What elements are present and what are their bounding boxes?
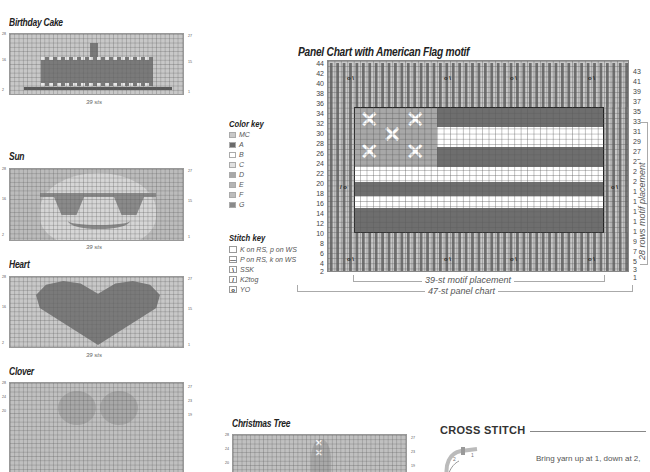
yo-ssk-marker: o \: [347, 256, 354, 262]
color-key-item-a: A: [229, 141, 244, 148]
cake-candle: [90, 43, 98, 57]
color-key-item-e: E: [229, 181, 244, 188]
heart-sts: 39 sts: [86, 352, 102, 358]
svg-text:2: 2: [453, 456, 456, 462]
swatch-f: [229, 192, 236, 198]
clover-leaf-left: [58, 391, 96, 425]
yo-ssk-marker: o \: [611, 184, 618, 190]
motif-height-label: 28 rows motif placement: [637, 160, 647, 262]
color-key-item-d: D: [229, 171, 244, 178]
svg-text:1: 1: [471, 452, 474, 458]
stitch-key-heading: Stitch key: [229, 233, 265, 243]
christmas-tree-chart: ✕ ✕: [232, 434, 407, 472]
birthday-cake-chart: [9, 33, 184, 95]
chart-title-clover: Clover: [9, 366, 34, 377]
motif-width-label: 39-st motif placement: [422, 275, 514, 285]
cross-stitch-instructions: Bring yarn up at 1, down at 2,: [536, 454, 641, 463]
yo-ssk-marker: o \: [444, 75, 451, 81]
sun-glasses-band: [40, 193, 156, 197]
color-key-heading: Color key: [229, 119, 264, 129]
panel-width-label: 47-st panel chart: [425, 286, 498, 296]
chart-title-heart: Heart: [9, 259, 29, 270]
swatch-c: [229, 162, 236, 168]
yo-ssk-marker: o \: [444, 256, 451, 262]
yo-symbol-icon: o: [229, 286, 237, 293]
birthday-cake-sts: 39 sts: [86, 99, 102, 105]
swatch-d: [229, 172, 236, 178]
color-key-item-f: F: [229, 191, 243, 198]
cake-plate: [24, 87, 172, 90]
chart-title-christmas-tree: Christmas Tree: [232, 418, 290, 429]
chart-title-sun: Sun: [9, 151, 24, 162]
clover-chart: [9, 382, 184, 472]
cake-icing-top: [41, 57, 153, 60]
k2tog-yo-marker: / o: [340, 184, 347, 190]
sun-chart: [9, 168, 184, 241]
stitch-key-knit: K on RS, p on WS: [229, 246, 297, 253]
yo-ssk-marker: o \: [510, 256, 517, 262]
panel-chart-title: Panel Chart with American Flag motif: [298, 45, 469, 59]
color-key-item-g: G: [229, 201, 244, 208]
color-key-item-mc: MC: [229, 131, 250, 138]
ssk-symbol-icon: \: [229, 266, 237, 273]
tree-ornament-icon: ✕: [315, 448, 323, 458]
cross-stitch-heading: CROSS STITCH: [440, 424, 526, 436]
sun-smile: [68, 213, 130, 229]
yo-ssk-marker: o \: [588, 256, 595, 262]
knit-symbol-icon: [229, 246, 237, 253]
yo-ssk-marker: o \: [510, 75, 517, 81]
color-key-item-b: B: [229, 151, 244, 158]
cake-body: [41, 58, 153, 86]
swatch-g: [229, 202, 236, 208]
chart-title-birthday-cake: Birthday Cake: [9, 17, 63, 28]
stitch-key-purl: —P on RS, k on WS: [229, 256, 296, 263]
tree-star-icon: ✕: [315, 438, 323, 448]
yo-ssk-marker: o \: [347, 75, 354, 81]
color-key-item-c: C: [229, 161, 244, 168]
clover-leaf-right: [100, 391, 138, 425]
swatch-e: [229, 182, 236, 188]
stitch-key-ssk: \SSK: [229, 266, 254, 273]
heart-chart: [9, 276, 184, 348]
swatch-mc: [229, 132, 236, 138]
k2tog-symbol-icon: /: [229, 276, 237, 283]
purl-symbol-icon: —: [229, 256, 237, 263]
heart-shape: [36, 281, 160, 345]
cross-stitch-diagram-icon: 2 1: [443, 447, 491, 472]
panel-chart: ✕ ✕ ✕ ✕ ✕ o \ o \ o \ o \ / o o \ o \ o …: [327, 60, 629, 272]
sun-sts: 39 sts: [86, 244, 102, 250]
stitch-key-yo: oYO: [229, 286, 250, 293]
swatch-a: [229, 142, 236, 148]
yo-ssk-marker: o \: [588, 75, 595, 81]
cake-icing-bottom: [41, 83, 153, 86]
stitch-key-k2tog: /K2tog: [229, 276, 258, 283]
cross-stitch-rule: [530, 431, 646, 432]
swatch-b: [229, 152, 236, 158]
